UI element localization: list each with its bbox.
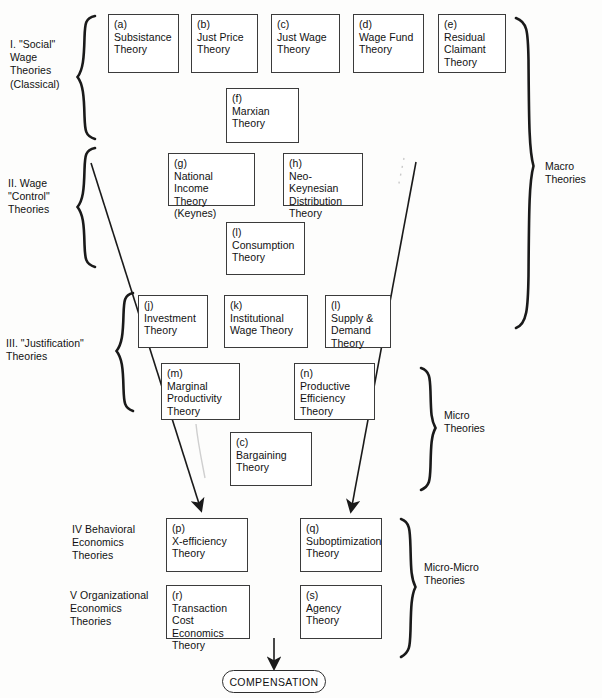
theory-box-s[interactable]: (s) Agency Theory (300, 585, 382, 639)
theory-box-a[interactable]: (a) Subsistance Theory (108, 14, 179, 73)
theory-title-r: Transaction Cost Economics Theory (172, 602, 245, 652)
theory-box-l[interactable]: (l) Supply & Demand Theory (325, 295, 391, 348)
group-label-III: III. "Justification" Theories (6, 337, 126, 363)
theory-tag-q: (q) (306, 522, 377, 535)
theory-title-g: National Income Theory (Keynes) (174, 170, 250, 220)
theory-title-l: Supply & Demand Theory (331, 312, 386, 350)
theory-box-g[interactable]: (g) National Income Theory (Keynes) (168, 153, 255, 206)
group-label-I: I. "Social" Wage Theories (Classical) (10, 38, 82, 91)
theory-tag-c: (c) (277, 18, 335, 31)
theory-box-j[interactable]: (j) Investment Theory (138, 295, 208, 348)
theory-title-consumption: Consumption Theory (232, 239, 300, 264)
side-label-micro: Micro Theories (444, 409, 485, 436)
theory-box-b[interactable]: (b) Just Price Theory (191, 14, 258, 73)
compensation-node[interactable]: COMPENSATION (222, 670, 326, 693)
theory-box-h[interactable]: (h) Neo-Keynesian Distribution Theory (283, 153, 363, 206)
theory-title-bargaining: Bargaining Theory (236, 449, 307, 474)
theory-box-e[interactable]: (e) Residual Claimant Theory (438, 14, 506, 73)
diagram-canvas: I. "Social" Wage Theories (Classical) II… (0, 0, 602, 698)
theory-box-d[interactable]: (d) Wage Fund Theory (353, 14, 424, 73)
side-label-micro-micro: Micro-Micro Theories (424, 561, 479, 588)
theory-tag-n: (n) (300, 367, 370, 380)
theory-title-m: Marginal Productivity Theory (167, 380, 235, 418)
theory-title-e: Residual Claimant Theory (444, 31, 501, 69)
theory-title-d: Wage Fund Theory (359, 31, 419, 56)
group-label-IV: IV Behavioral Economics Theories (72, 523, 168, 563)
theory-tag-p: (p) (172, 522, 243, 535)
theory-title-p: X-efficiency Theory (172, 535, 243, 560)
theory-tag-f: (f) (232, 92, 294, 105)
theory-tag-k: (k) (230, 299, 303, 312)
theory-tag-h: (h) (289, 157, 358, 170)
theory-tag-e: (e) (444, 18, 501, 31)
theory-tag-l: (l) (331, 299, 386, 312)
theory-box-k[interactable]: (k) Institutional Wage Theory (224, 295, 308, 348)
theory-tag-m: (m) (167, 367, 235, 380)
theory-box-n[interactable]: (n) Productive Efficiency Theory (294, 363, 375, 420)
group-label-V: V Organizational Economics Theories (70, 589, 170, 629)
theory-title-h: Neo-Keynesian Distribution Theory (289, 170, 358, 220)
theory-title-c: Just Wage Theory (277, 31, 335, 56)
theory-tag-consumption: (l) (232, 226, 300, 239)
theory-tag-a: (a) (114, 18, 174, 31)
theory-title-f: Marxian Theory (232, 105, 294, 130)
theory-box-q[interactable]: (q) Suboptimization Theory (300, 518, 382, 572)
theory-box-r[interactable]: (r) Transaction Cost Economics Theory (166, 585, 250, 639)
theory-tag-d: (d) (359, 18, 419, 31)
theory-box-bargaining[interactable]: (c) Bargaining Theory (230, 432, 312, 486)
theory-title-b: Just Price Theory (197, 31, 253, 56)
theory-tag-bargaining: (c) (236, 436, 307, 449)
theory-box-f[interactable]: (f) Marxian Theory (226, 88, 299, 143)
theory-title-k: Institutional Wage Theory (230, 312, 303, 337)
group-label-II: II. Wage "Control" Theories (8, 177, 86, 217)
theory-box-m[interactable]: (m) Marginal Productivity Theory (161, 363, 240, 420)
theory-title-j: Investment Theory (144, 312, 203, 337)
side-label-macro: Macro Theories (545, 160, 586, 187)
theory-box-p[interactable]: (p) X-efficiency Theory (166, 518, 248, 572)
theory-tag-g: (g) (174, 157, 250, 170)
theory-title-q: Suboptimization Theory (306, 535, 377, 560)
theory-title-s: Agency Theory (306, 602, 377, 627)
theory-tag-r: (r) (172, 589, 245, 602)
theory-title-a: Subsistance Theory (114, 31, 174, 56)
theory-box-consumption[interactable]: (l) Consumption Theory (226, 222, 305, 275)
theory-box-c[interactable]: (c) Just Wage Theory (271, 14, 340, 73)
theory-tag-s: (s) (306, 589, 377, 602)
theory-title-n: Productive Efficiency Theory (300, 380, 370, 418)
theory-tag-j: (j) (144, 299, 203, 312)
theory-tag-b: (b) (197, 18, 253, 31)
